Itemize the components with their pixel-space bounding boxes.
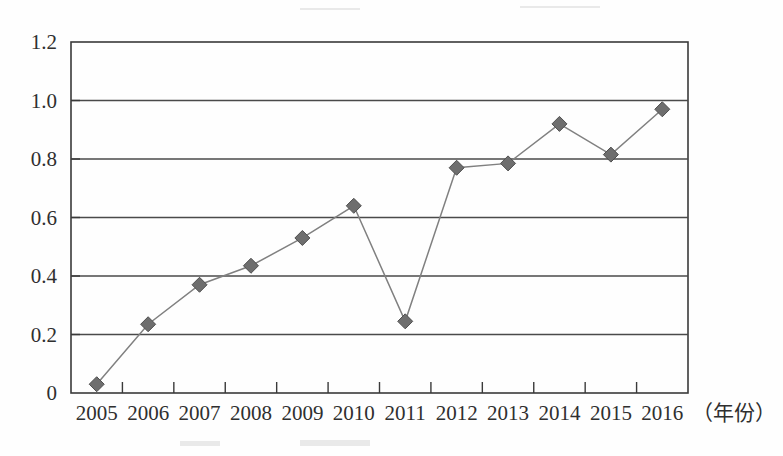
x-tick-label: 2010: [333, 401, 375, 425]
line-chart-canvas: 00.20.40.60.81.01.2 20052006200720082009…: [0, 0, 783, 456]
x-tick-label: 2014: [538, 401, 581, 425]
x-tick-label: 2009: [281, 401, 323, 425]
x-tick-label: 2015: [590, 401, 632, 425]
data-point-marker: [552, 116, 567, 131]
y-tick-label: 0: [47, 381, 58, 405]
x-tick-label: 2016: [641, 401, 683, 425]
gridlines-group: [71, 101, 688, 335]
series-line-path: [97, 109, 663, 384]
x-tick-label: 2011: [385, 401, 426, 425]
y-axis-tick-labels: 00.20.40.60.81.01.2: [31, 30, 58, 405]
y-tick-label: 1.2: [31, 30, 57, 54]
x-tick-label: 2006: [127, 401, 169, 425]
x-tick-label: 2008: [230, 401, 272, 425]
series-markers-group: [89, 102, 670, 392]
data-point-marker: [398, 314, 413, 329]
x-tick-marks-group: [122, 382, 636, 393]
y-tick-label: 1.0: [31, 89, 57, 113]
x-tick-label: 2005: [76, 401, 118, 425]
x-tick-label: 2012: [436, 401, 478, 425]
data-series-group: [89, 102, 670, 392]
data-point-marker: [295, 230, 310, 245]
data-point-marker: [449, 160, 464, 175]
y-tick-label: 0.4: [31, 264, 58, 288]
x-axis-tick-labels: 2005200620072008200920102011201220132014…: [76, 401, 684, 425]
y-tick-label: 0.2: [31, 323, 57, 347]
scan-artifacts: [180, 6, 600, 446]
data-point-marker: [346, 198, 361, 213]
data-point-marker: [243, 258, 258, 273]
x-tick-label: 2013: [487, 401, 529, 425]
data-point-marker: [501, 156, 516, 171]
x-axis-unit-label: （年份）: [692, 401, 776, 425]
chart-figure: 00.20.40.60.81.01.2 20052006200720082009…: [0, 0, 783, 456]
x-tick-label: 2007: [179, 401, 221, 425]
y-tick-label: 0.8: [31, 147, 57, 171]
y-tick-marks-group: [71, 101, 80, 335]
data-point-marker: [192, 277, 207, 292]
y-tick-label: 0.6: [31, 206, 57, 230]
